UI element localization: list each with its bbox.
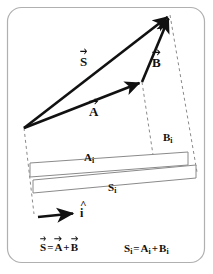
scalar-equation-rhs-b-sub: i (166, 247, 168, 256)
scalar-equation-equals-sign: = (132, 242, 140, 254)
vector-addition-figure: S A B ^ i Ai Bi Si (0, 0, 213, 274)
component-b-i-subscript: i (170, 136, 172, 145)
component-a-i-base: A (84, 151, 92, 163)
vector-s-letter: S (80, 54, 87, 69)
component-b-i-label: Bi (163, 132, 173, 145)
equation-plus-sign: + (62, 241, 70, 253)
figure-canvas (0, 0, 213, 274)
vector-a-letter: A (89, 104, 98, 119)
vector-b-letter: B (152, 55, 161, 70)
unit-vector-i-label: ^ i (80, 207, 83, 219)
scalar-sum-equation: Si=Ai+Bi (124, 243, 169, 256)
vector-a-label: A (89, 105, 98, 118)
component-s-i-subscript: i (114, 186, 116, 195)
hat-accent-icon: ^ (80, 199, 83, 210)
component-s-i-label: Si (108, 182, 116, 195)
equation-rhs-a: A (54, 241, 62, 253)
component-a-i-subscript: i (92, 156, 94, 165)
vector-sum-equation: S = A + B (40, 242, 78, 253)
equation-equals-sign: = (46, 241, 54, 253)
scalar-equation-plus-sign: + (151, 242, 159, 254)
vector-b-label: B (152, 56, 161, 69)
vector-s-label: S (80, 55, 87, 68)
component-a-i-label: Ai (84, 152, 94, 165)
equation-rhs-b: B (71, 241, 78, 253)
equation-lhs-s: S (40, 241, 46, 253)
scalar-equation-rhs-a: A (141, 242, 149, 254)
